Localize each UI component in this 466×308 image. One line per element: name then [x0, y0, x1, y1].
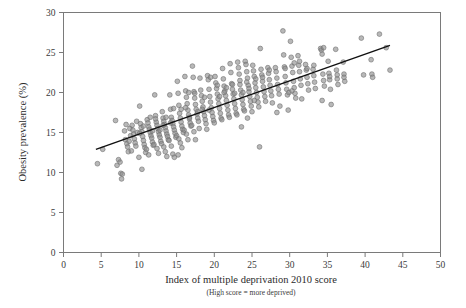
- scatter-point: [133, 144, 138, 149]
- scatter-point: [359, 36, 364, 41]
- scatter-point: [189, 123, 194, 128]
- scatter-point: [244, 80, 249, 85]
- y-tick-label: 0: [51, 248, 56, 258]
- scatter-point: [370, 75, 375, 80]
- scatter-point: [228, 70, 233, 75]
- scatter-point: [313, 86, 318, 91]
- scatter-point: [208, 75, 213, 80]
- scatter-point: [312, 80, 317, 85]
- scatter-point: [202, 95, 207, 100]
- scatter-point: [176, 153, 181, 158]
- scatter-point: [289, 55, 294, 60]
- y-tick-label: 10: [46, 168, 56, 178]
- scatter-point: [270, 101, 275, 106]
- scatter-point: [161, 145, 166, 150]
- scatter-point: [230, 82, 235, 87]
- x-tick-label: 50: [436, 260, 446, 270]
- scatter-point: [160, 109, 165, 114]
- scatter-point: [113, 118, 118, 123]
- scatter-point: [191, 75, 196, 80]
- scatter-point: [207, 94, 212, 99]
- x-tick-label: 5: [99, 260, 104, 270]
- scatter-point: [204, 127, 209, 132]
- scatter-point: [192, 91, 197, 96]
- scatter-point: [242, 109, 247, 114]
- scatter-point: [256, 105, 261, 110]
- scatter-point: [278, 104, 283, 109]
- chart-svg: 05101520253035404550 051015202530 Index …: [0, 0, 466, 308]
- scatter-point: [288, 39, 293, 44]
- scatter-point: [262, 94, 267, 99]
- scatter-point: [274, 76, 279, 81]
- scatter-point: [286, 108, 291, 113]
- x-axis-title: Index of multiple deprivation 2010 score: [165, 274, 337, 285]
- scatter-point: [241, 102, 246, 107]
- y-tick-label: 20: [46, 88, 56, 98]
- scatter-point: [239, 125, 244, 130]
- scatter-point: [232, 101, 237, 106]
- scatter-point: [238, 78, 243, 83]
- scatter-point: [152, 93, 157, 98]
- scatter-point: [153, 117, 158, 122]
- scatter-point: [120, 172, 125, 177]
- scatter-point: [186, 137, 191, 142]
- scatter-point: [297, 69, 302, 74]
- scatter-point: [253, 85, 258, 90]
- scatter-point: [222, 90, 227, 95]
- x-tick-label: 15: [172, 260, 182, 270]
- scatter-point: [167, 138, 172, 143]
- scatter-point: [212, 121, 217, 126]
- scatter-point: [156, 151, 161, 156]
- y-tick-label: 30: [46, 8, 56, 18]
- scatter-point: [311, 63, 316, 68]
- scatter-point: [306, 88, 311, 93]
- scatter-point: [267, 77, 272, 82]
- scatter-point: [237, 72, 242, 77]
- x-tick-label: 10: [134, 260, 144, 270]
- scatter-point: [269, 93, 274, 98]
- scatter-point: [247, 86, 252, 91]
- scatter-point: [326, 59, 331, 64]
- scatter-point: [335, 73, 340, 78]
- scatter-point: [334, 68, 339, 73]
- y-tick-label: 5: [51, 208, 56, 218]
- scatter-point: [192, 129, 197, 134]
- scatter-point: [137, 104, 142, 109]
- scatter-point: [276, 87, 281, 92]
- scatter-point: [232, 91, 237, 96]
- scatter-point: [277, 92, 282, 97]
- scatter-point: [233, 106, 238, 111]
- scatter-point: [241, 90, 246, 95]
- scatter-point: [184, 95, 189, 100]
- scatter-point: [163, 149, 168, 154]
- scatter-point: [260, 75, 265, 80]
- scatter-point: [190, 64, 195, 69]
- scatter-point: [167, 93, 172, 98]
- scatter-point: [322, 84, 327, 89]
- x-tick-label: 0: [61, 260, 66, 270]
- x-tick-label: 35: [323, 260, 333, 270]
- scatter-point: [208, 100, 213, 105]
- scatter-point: [164, 115, 169, 120]
- scatter-point: [148, 115, 153, 120]
- scatter-point: [245, 116, 250, 121]
- scatter-point: [274, 110, 279, 115]
- scatter-point: [281, 29, 286, 34]
- scatter-point: [146, 153, 151, 158]
- y-axis-title: Obesity prevalence (%): [17, 82, 29, 182]
- scatter-point: [220, 66, 225, 71]
- scatter-point: [130, 123, 135, 128]
- x-tick-label: 25: [247, 260, 257, 270]
- scatter-point: [252, 98, 257, 103]
- scatter-point: [292, 61, 297, 66]
- scatter-point: [268, 89, 273, 94]
- scatter-point: [124, 122, 129, 127]
- scatter-point: [176, 91, 181, 96]
- scatter-point: [361, 73, 366, 78]
- scatter-point: [251, 69, 256, 74]
- scatter-point: [228, 61, 233, 66]
- scatter-point: [95, 161, 100, 166]
- scatter-point: [388, 68, 393, 73]
- scatter-point: [253, 77, 258, 82]
- scatter-point: [250, 63, 255, 68]
